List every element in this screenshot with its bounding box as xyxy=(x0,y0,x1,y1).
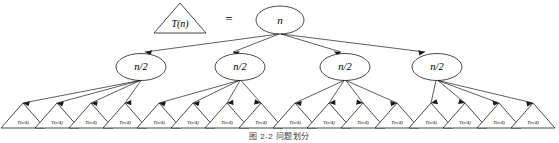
leaf-label: T(n/4) xyxy=(289,120,301,125)
leaf-label: T(n/4) xyxy=(323,120,335,125)
leaf-label: T(n/4) xyxy=(425,120,437,125)
leaf-label: T(n/4) xyxy=(85,120,97,125)
leaf-label: T(n/4) xyxy=(187,120,199,125)
leaf-label: T(n/4) xyxy=(391,120,403,125)
leaf-label: T(n/4) xyxy=(153,120,165,125)
leaf-node-15: T(n/4) xyxy=(511,103,555,128)
level1-node-label: n/2 xyxy=(134,61,148,72)
level1-node-label: n/2 xyxy=(233,61,247,72)
equals-sign: = xyxy=(225,11,232,26)
level1-node-1: n/2 xyxy=(215,54,265,81)
leaf-label: T(n/4) xyxy=(119,120,131,125)
leaf-label: T(n/4) xyxy=(221,120,233,125)
level1-node-3: n/2 xyxy=(412,54,462,81)
recursion-tree-figure: T(n) = n n/2 n/2 n xyxy=(0,0,559,143)
arrowhead-icon xyxy=(431,99,438,104)
tree-diagram-svg: T(n) = n n/2 n/2 n xyxy=(0,0,559,143)
level1-node-label: n/2 xyxy=(430,61,444,72)
arrowhead-icon xyxy=(418,50,425,55)
level1-to-leaf-edges xyxy=(23,81,533,107)
leaf-label: T(n/4) xyxy=(527,120,539,125)
leaf-label: T(n/4) xyxy=(255,120,267,125)
root-to-level1-edges xyxy=(145,34,425,56)
arrowhead-icon xyxy=(458,99,465,104)
level1-node-0: n/2 xyxy=(116,54,166,81)
level1-node-2: n/2 xyxy=(320,54,370,81)
leaf-label: T(n/4) xyxy=(51,120,63,125)
root-triangle-label: T(n) xyxy=(171,18,189,30)
leaf-label: T(n/4) xyxy=(357,120,369,125)
figure-caption: 图 2-2 问题划分 xyxy=(0,130,559,141)
leaf-label: T(n/4) xyxy=(17,120,29,125)
root-node: n xyxy=(256,6,304,34)
leaf-label: T(n/4) xyxy=(459,120,471,125)
leaf-label: T(n/4) xyxy=(493,120,505,125)
level1-node-label: n/2 xyxy=(338,61,352,72)
root-node-label: n xyxy=(277,14,283,26)
equation-group: T(n) = xyxy=(154,3,233,33)
